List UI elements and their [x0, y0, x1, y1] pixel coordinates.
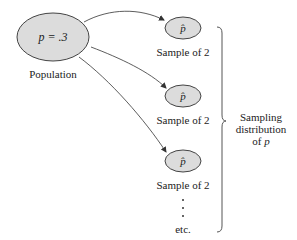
brace-label-line1: Sampling	[228, 111, 294, 123]
brace-label-line3: of p	[228, 135, 294, 147]
sample-2-statistic: p̂	[165, 90, 201, 102]
sample-3-statistic: p̂	[165, 155, 201, 167]
population-parameter: p = .3	[17, 31, 89, 43]
brace-label-line3-prefix: of	[252, 135, 264, 147]
continuation-dot-1	[182, 199, 184, 201]
sample-1-statistic: p̂	[165, 22, 201, 34]
sample-3-caption: Sample of 2	[148, 179, 218, 191]
brace-label-line2: distribution	[228, 123, 294, 135]
brace-label-line3-var: p	[264, 135, 270, 147]
continuation-dot-2	[182, 207, 184, 209]
continuation-caption: etc.	[163, 223, 203, 235]
continuation-dot-3	[182, 215, 184, 217]
brace-icon	[217, 27, 226, 232]
population-caption: Population	[13, 68, 93, 80]
arrow-to-sample-1	[84, 11, 164, 22]
sample-2-caption: Sample of 2	[148, 114, 218, 126]
sample-1-caption: Sample of 2	[148, 46, 218, 58]
